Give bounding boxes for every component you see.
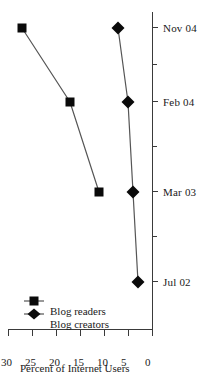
marker-blog-creators: [127, 186, 140, 199]
marker-blog-creators: [112, 22, 125, 35]
legend-label-blog-readers: Blog readers: [50, 305, 106, 317]
marker-blog-creators: [122, 96, 135, 109]
series-line-blog-readers: [22, 28, 99, 192]
y-axis-title: Percent of Internet Users: [20, 362, 130, 374]
y-tick-label-0: 0: [145, 356, 167, 368]
series-line-blog-creators: [118, 28, 138, 282]
marker-blog-readers: [66, 98, 75, 107]
legend-label-blog-creators: Blog creators: [50, 318, 109, 330]
marker-blog-readers: [95, 188, 104, 197]
x-tick-label-nov04: Nov 04: [163, 22, 197, 34]
marker-blog-creators: [132, 276, 145, 289]
x-tick-label-feb04: Feb 04: [163, 96, 194, 108]
x-tick-label-jul02: Jul 02: [163, 276, 191, 288]
x-tick-label-mar03: Mar 03: [163, 186, 196, 198]
marker-blog-readers: [18, 24, 27, 33]
